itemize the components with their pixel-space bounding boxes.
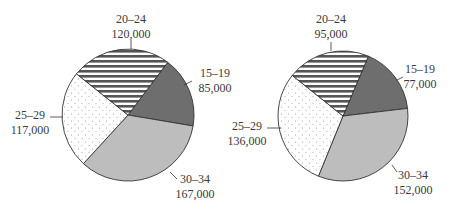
pie2-label-20-24: 20–2495,000 <box>306 12 356 42</box>
pie2-label-25-29: 25–29136,000 <box>222 119 272 149</box>
pie1-label-30-34: 30–34167,000 <box>170 172 220 202</box>
pie1-label-20-24: 20–24120,000 <box>106 12 156 42</box>
pie1-label-15-19: 15–1985,000 <box>190 66 240 96</box>
pie2-label-30-34: 30–34152,000 <box>388 168 438 198</box>
pie-chart-1 <box>62 49 194 181</box>
pie-chart-2 <box>278 51 408 181</box>
pie1-label-25-29: 25–29117,000 <box>5 108 55 138</box>
pie2-label-15-19: 15–1977,000 <box>395 62 445 92</box>
pie-charts <box>0 0 453 211</box>
